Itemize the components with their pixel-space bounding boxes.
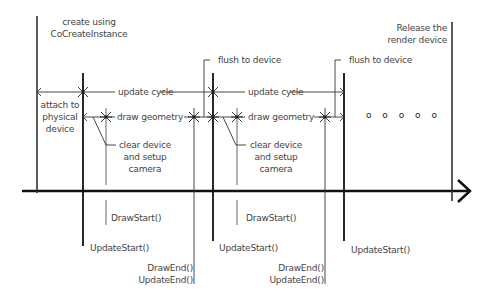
clear-device-label-1: clear device and setup camera xyxy=(114,139,176,175)
create-label: create using CoCreateInstance xyxy=(44,16,134,40)
update-cycle-label-1: update cycle xyxy=(118,86,173,98)
update-end-label-2: UpdateEnd() xyxy=(261,274,324,286)
draw-geometry-label-2: draw geometry xyxy=(248,111,314,123)
update-end-label-1: UpdateEnd() xyxy=(130,274,193,286)
continuation-dots: o o o o o xyxy=(366,110,441,120)
clear-device-label-2: clear device and setup camera xyxy=(245,139,307,175)
update-start-label-1: UpdateStart() xyxy=(90,242,149,254)
draw-start-label-2: DrawStart() xyxy=(246,212,296,224)
flush-label-1: flush to device xyxy=(218,54,281,66)
release-label: Release the render device xyxy=(352,22,447,46)
attach-label: attach to physical device xyxy=(37,99,83,135)
flush-label-2: flush to device xyxy=(349,54,412,66)
update-start-label-2: UpdateStart() xyxy=(219,242,278,254)
update-start-label-3: UpdateStart() xyxy=(351,244,410,256)
update-cycle-label-2: update cycle xyxy=(248,86,303,98)
draw-geometry-label-1: draw geometry xyxy=(117,111,183,123)
draw-end-label-1: DrawEnd() xyxy=(130,262,193,274)
timeline-axis xyxy=(22,180,470,202)
draw-end-label-2: DrawEnd() xyxy=(261,262,324,274)
draw-start-label-1: DrawStart() xyxy=(111,212,161,224)
